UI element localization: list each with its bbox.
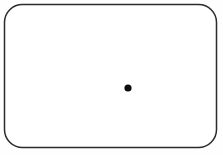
figure-drawing (0, 0, 223, 155)
interior-point-dot (124, 84, 131, 91)
figure-canvas (0, 0, 223, 155)
rounded-rectangle-shape (5, 5, 217, 148)
